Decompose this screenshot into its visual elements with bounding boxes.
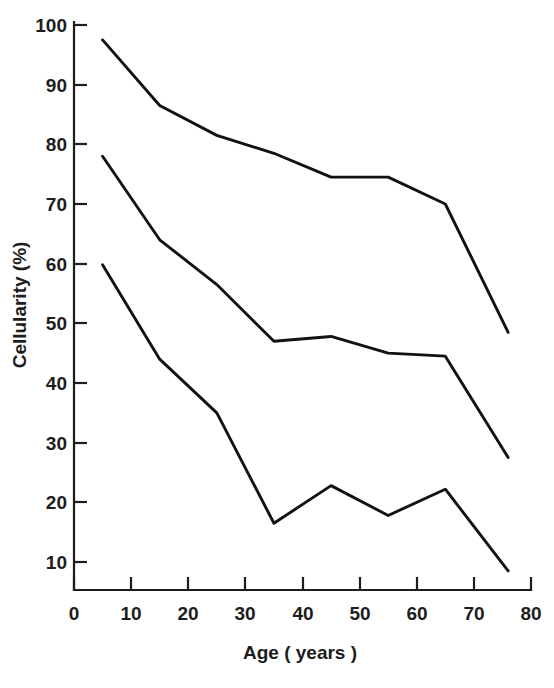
chart-figure: 100 90 80 70 60 50 40 30 20 10 0 10 bbox=[0, 0, 554, 688]
x-tick-label-40: 40 bbox=[292, 603, 313, 624]
x-tick-label-20: 20 bbox=[177, 603, 198, 624]
x-axis-title: Age ( years ) bbox=[243, 642, 357, 663]
series-line-middle bbox=[103, 156, 509, 457]
y-tick-label-70: 70 bbox=[46, 194, 67, 215]
cellularity-vs-age-line-chart: 100 90 80 70 60 50 40 30 20 10 0 10 bbox=[0, 0, 554, 688]
x-tick-label-0: 0 bbox=[69, 603, 80, 624]
x-axis-ticks bbox=[74, 577, 531, 590]
x-tick-label-60: 60 bbox=[406, 603, 427, 624]
y-axis-ticks bbox=[74, 25, 87, 562]
y-tick-label-80: 80 bbox=[46, 134, 67, 155]
y-tick-label-50: 50 bbox=[46, 313, 67, 334]
y-tick-label-10: 10 bbox=[46, 552, 67, 573]
series-line-upper bbox=[103, 40, 509, 332]
y-tick-label-30: 30 bbox=[46, 433, 67, 454]
y-axis-title: Cellularity (%) bbox=[9, 242, 30, 369]
y-tick-label-90: 90 bbox=[46, 75, 67, 96]
x-tick-label-80: 80 bbox=[520, 603, 541, 624]
series-line-lower bbox=[103, 265, 509, 571]
y-tick-label-40: 40 bbox=[46, 373, 67, 394]
y-tick-label-100: 100 bbox=[35, 15, 67, 36]
y-tick-label-60: 60 bbox=[46, 254, 67, 275]
y-axis-tick-labels: 100 90 80 70 60 50 40 30 20 10 bbox=[35, 15, 67, 573]
x-tick-label-10: 10 bbox=[120, 603, 141, 624]
x-tick-label-70: 70 bbox=[463, 603, 484, 624]
y-tick-label-20: 20 bbox=[46, 492, 67, 513]
x-tick-label-30: 30 bbox=[234, 603, 255, 624]
x-axis-tick-labels: 0 10 20 30 40 50 60 70 80 bbox=[69, 603, 542, 624]
x-tick-label-50: 50 bbox=[349, 603, 370, 624]
data-series-group bbox=[103, 40, 509, 571]
